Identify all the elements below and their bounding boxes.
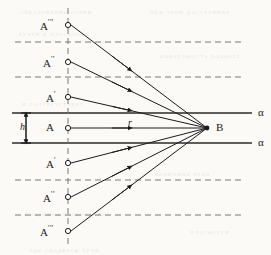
point-label-p3: A' (46, 91, 56, 104)
point-label-p1: A''' (40, 19, 54, 32)
point-label-p2: A'' (43, 56, 55, 69)
point-label-p7: A''' (40, 225, 54, 238)
point-label-p5: A' (46, 157, 56, 170)
ray-from-p5 (71, 128, 207, 163)
ray-lines (71, 25, 207, 231)
point-marker-p2 (65, 59, 70, 64)
alpha-label-alpha-bottom: α (258, 137, 264, 148)
ray-diagram-figure (0, 0, 271, 255)
ray-arrowhead-p6 (112, 167, 131, 177)
ray-from-p6 (71, 128, 207, 197)
point-marker-p3 (65, 94, 70, 99)
point-marker-p6 (65, 194, 70, 199)
point-marker-p5 (65, 160, 70, 165)
ray-arrowhead-p3 (112, 106, 131, 110)
alpha-label-alpha-top: α (258, 107, 264, 118)
point-marker-p4 (65, 125, 70, 130)
ray-label-r: r (128, 118, 132, 128)
convergence-point-b (205, 126, 210, 131)
point-marker-b (205, 126, 210, 131)
point-label-b: B (216, 122, 223, 133)
point-label-p6: A'' (43, 191, 55, 204)
ray-arrowhead-p1 (112, 56, 131, 70)
point-marker-p1 (65, 22, 70, 27)
ray-arrowhead-p5 (112, 148, 131, 153)
point-label-p4: A (46, 122, 54, 133)
ray-arrowhead-p7 (112, 186, 131, 200)
height-label: h (20, 122, 25, 132)
point-marker-p7 (65, 228, 70, 233)
ray-arrowhead-p2 (112, 82, 131, 91)
ray-from-p2 (71, 62, 207, 128)
